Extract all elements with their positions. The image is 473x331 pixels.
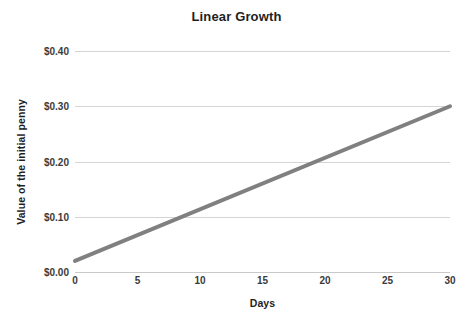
x-axis-title: Days	[75, 297, 450, 309]
x-axis-tick-label: 10	[194, 275, 205, 286]
chart-title: Linear Growth	[0, 9, 473, 24]
x-axis-tick-label: 0	[72, 275, 78, 286]
x-axis-tick-label: 30	[444, 275, 455, 286]
x-axis-tick-label: 5	[135, 275, 141, 286]
x-axis-tick-label: 15	[257, 275, 268, 286]
x-axis-tick-label: 25	[382, 275, 393, 286]
series-line-linear-growth	[75, 106, 450, 261]
y-axis-tick-label: $0.20	[7, 156, 69, 167]
y-axis-tick-label: $0.00	[7, 267, 69, 278]
plot-area	[75, 51, 450, 272]
y-axis-tick-labels: $0.00$0.10$0.20$0.30$0.40	[0, 51, 69, 272]
y-axis-tick-label: $0.40	[7, 46, 69, 57]
x-axis-tick-label: 20	[319, 275, 330, 286]
y-axis-tick-label: $0.30	[7, 101, 69, 112]
y-axis-tick-label: $0.10	[7, 211, 69, 222]
gridline	[75, 272, 450, 273]
x-axis-tick-labels: 051015202530	[75, 275, 450, 291]
series-line-chart	[75, 51, 450, 272]
chart-figure: Linear Growth Value of the initial penny…	[0, 0, 473, 331]
